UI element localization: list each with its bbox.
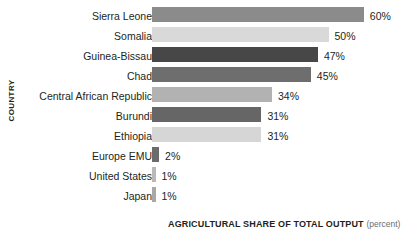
bar-value-label: 34%	[278, 88, 299, 104]
x-axis-title-label: AGRICULTURAL SHARE OF TOTAL OUTPUT	[168, 219, 364, 229]
bar	[152, 187, 156, 202]
plot-area: Sierra Leone60%Somalia50%Guinea-Bissau47…	[22, 6, 414, 206]
bar-value-label: 1%	[162, 168, 177, 184]
bar-row: Sierra Leone60%	[22, 6, 414, 26]
bar-category-label: Japan	[12, 188, 152, 204]
bar-category-label: Ethiopia	[12, 128, 152, 144]
bar	[152, 87, 272, 102]
bar	[152, 147, 159, 162]
bar-row: Somalia50%	[22, 26, 414, 46]
bar-value-label: 45%	[317, 68, 338, 84]
bar-row: Japan1%	[22, 186, 414, 206]
bar-value-label: 60%	[370, 8, 391, 24]
agricultural-share-bar-chart: COUNTRY Sierra Leone60%Somalia50%Guinea-…	[0, 0, 414, 242]
bar-fill	[152, 7, 364, 22]
bar-row: Guinea-Bissau47%	[22, 46, 414, 66]
bar-fill	[152, 107, 261, 122]
bar-value-label: 1%	[162, 188, 177, 204]
bar	[152, 47, 318, 62]
bar-value-label: 31%	[267, 128, 288, 144]
bar-value-label: 47%	[324, 48, 345, 64]
bar-fill	[152, 187, 156, 202]
bar-fill	[152, 147, 159, 162]
bar	[152, 67, 311, 82]
bar	[152, 7, 364, 22]
bar-row: Ethiopia31%	[22, 126, 414, 146]
bar-fill	[152, 47, 318, 62]
bar	[152, 27, 329, 42]
bar-fill	[152, 87, 272, 102]
bar-row: Europe EMU2%	[22, 146, 414, 166]
bar-row: Chad45%	[22, 66, 414, 86]
bar-row: Burundi31%	[22, 106, 414, 126]
bar-fill	[152, 127, 261, 142]
bar-category-label: Chad	[12, 68, 152, 84]
x-axis-title-unit: (percent)	[366, 219, 400, 229]
bar	[152, 127, 261, 142]
bar-category-label: Guinea-Bissau	[12, 48, 152, 64]
bar-value-label: 50%	[335, 28, 356, 44]
bar-category-label: Burundi	[12, 108, 152, 124]
bar-value-label: 2%	[165, 148, 180, 164]
bar-category-label: Central African Republic	[12, 88, 152, 104]
x-axis-title: AGRICULTURAL SHARE OF TOTAL OUTPUT (perc…	[168, 219, 400, 229]
bar-fill	[152, 27, 329, 42]
bar-category-label: Sierra Leone	[12, 8, 152, 24]
bar-category-label: Somalia	[12, 28, 152, 44]
bar-row: United States1%	[22, 166, 414, 186]
bar-category-label: Europe EMU	[12, 148, 152, 164]
bar-fill	[152, 167, 156, 182]
bar-fill	[152, 67, 311, 82]
bar-category-label: United States	[12, 168, 152, 184]
bar	[152, 107, 261, 122]
bar	[152, 167, 156, 182]
bar-value-label: 31%	[267, 108, 288, 124]
bar-row: Central African Republic34%	[22, 86, 414, 106]
